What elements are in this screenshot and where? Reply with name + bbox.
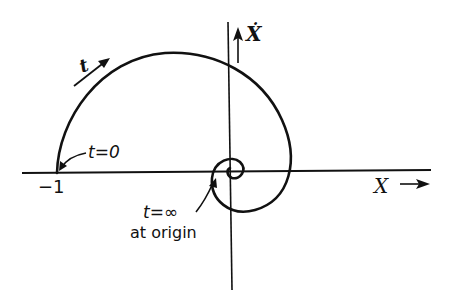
t-zero-arrow-icon (59, 153, 86, 171)
t-label: t (76, 54, 92, 77)
x-arrow-icon (400, 179, 430, 189)
start-value-label: −1 (38, 176, 65, 197)
y-axis (228, 22, 232, 290)
spiral-trajectory (57, 53, 291, 212)
at-origin-label: at origin (130, 223, 197, 242)
t-zero-label: t=0 (88, 142, 120, 162)
y-axis-label: Ẋ (244, 22, 263, 46)
y-arrow-icon (233, 27, 243, 63)
phase-plane-diagram: t t=0 −1 t=∞ at origin X Ẋ (0, 0, 454, 290)
x-axis-label: X (372, 174, 389, 198)
t-infinity-label: t=∞ (143, 202, 178, 222)
